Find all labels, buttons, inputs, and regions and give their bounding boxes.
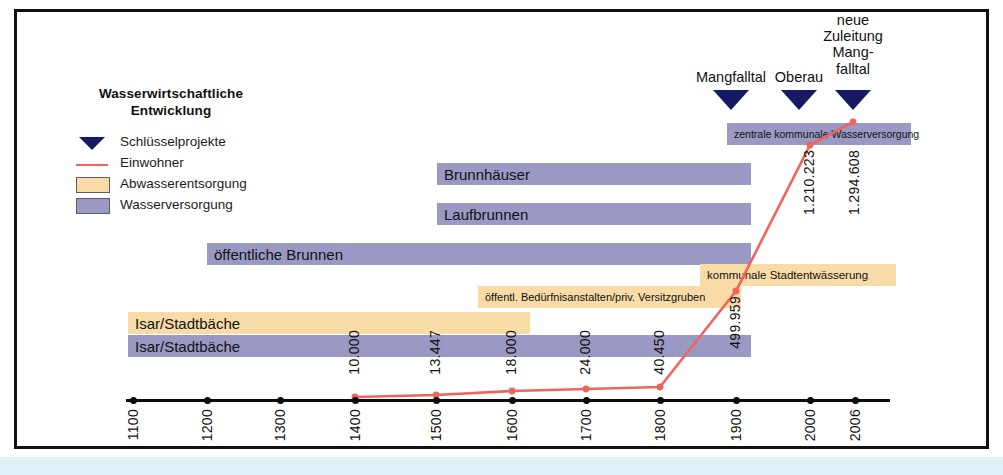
einwohner-value-label: 18.000: [503, 330, 519, 375]
key-project-label: Mangfalltal: [696, 69, 766, 85]
key-project-label: neueZuleitungMang-falltal: [823, 12, 883, 77]
timeline-bar-label: Isar/Stadtbäche: [135, 315, 240, 332]
einwohner-data-point: [583, 386, 590, 393]
axis-tick-label: 1700: [578, 409, 594, 441]
axis-tick-label: 1800: [652, 409, 668, 441]
axis-tick-label: 1600: [504, 409, 520, 441]
axis-tick-dot: [733, 397, 740, 404]
key-project-label-line: Zuleitung: [823, 28, 883, 44]
timeline-bar: öffentl. Bedürfnisanstalten/priv. Versit…: [478, 286, 741, 308]
timeline-bar: öffentliche Brunnen: [207, 243, 751, 265]
color-swatch-icon: [76, 177, 110, 193]
axis-tick-label: 2006: [847, 409, 863, 441]
legend-item-wasserversorgung: Wasserversorgung: [66, 196, 326, 217]
plot-area: Wasserwirtschaftliche Entwicklung Schlüs…: [0, 0, 1003, 457]
timeline-bar-label: zentrale kommunale Wasserversorgung: [734, 128, 919, 140]
scan-edge-strip: [0, 457, 1003, 475]
timeline-bar-label: Laufbrunnen: [444, 206, 528, 223]
axis-tick-dot: [277, 397, 284, 404]
timeline-bar: Isar/Stadtbäche: [128, 312, 530, 334]
legend-title-line1: Wasserwirtschaftliche: [66, 86, 276, 103]
axis-tick-label: 1900: [728, 409, 744, 441]
figure-root: Wasserwirtschaftliche Entwicklung Schlüs…: [0, 0, 1003, 475]
key-project-label-line: Oberau: [775, 69, 823, 85]
key-project-label: Oberau: [775, 69, 823, 85]
timeline-bar: kommunale Stadtentwässerung: [700, 264, 896, 286]
legend-item-abwasserentsorgung: Abwasserentsorgung: [66, 175, 326, 196]
timeline-bar-label: Isar/Stadtbäche: [135, 338, 240, 355]
einwohner-value-label: 499.959: [727, 296, 743, 349]
axis-baseline: [126, 399, 890, 402]
axis-tick-dot: [130, 397, 137, 404]
axis-tick-label: 1400: [347, 409, 363, 441]
key-project-label-line: neue: [823, 12, 883, 28]
axis-tick-dot: [657, 397, 664, 404]
axis-tick-label: 2000: [802, 409, 818, 441]
triangle-marker-icon: [79, 137, 105, 150]
triangle-marker-icon: [835, 90, 871, 110]
timeline-bar-label: Brunnhäuser: [444, 166, 530, 183]
timeline-bar-label: öffentl. Bedürfnisanstalten/priv. Versit…: [485, 291, 705, 303]
key-project-label-line: Mangfalltal: [696, 69, 766, 85]
timeline-bar: Laufbrunnen: [437, 203, 751, 225]
legend-item-label: Wasserversorgung: [120, 197, 233, 212]
axis-tick-label: 1200: [199, 409, 215, 441]
legend: Schlüsselprojekte Einwohner Abwasserents…: [66, 133, 326, 217]
axis-tick-dot: [509, 397, 516, 404]
legend-item-schluesselprojekte: Schlüsselprojekte: [66, 133, 326, 154]
legend-item-label: Schlüsselprojekte: [120, 134, 226, 149]
legend-title-line2: Entwicklung: [66, 103, 276, 120]
timeline-bar: Brunnhäuser: [437, 163, 751, 185]
timeline-bar: zentrale kommunale Wasserversorgung: [727, 123, 911, 145]
axis-tick-dot: [807, 397, 814, 404]
axis-tick-dot: [433, 397, 440, 404]
axis-tick-label: 1100: [125, 409, 141, 440]
einwohner-value-label: 13.447: [427, 330, 443, 375]
axis-tick-label: 1300: [272, 409, 288, 441]
einwohner-value-label: 1.210.223: [801, 150, 817, 215]
axis-tick-dot: [852, 397, 859, 404]
axis-tick-dot: [204, 397, 211, 404]
color-swatch-icon: [76, 198, 110, 214]
axis-tick-dot: [583, 397, 590, 404]
axis-tick-label: 1500: [428, 409, 444, 441]
line-swatch-icon: [76, 164, 108, 166]
legend-item-einwohner: Einwohner: [66, 154, 326, 175]
timeline-bar-label: öffentliche Brunnen: [214, 246, 343, 263]
key-project-label-line: Mang-: [823, 44, 883, 60]
einwohner-data-point: [509, 388, 516, 395]
key-project-label-line: falltal: [823, 61, 883, 77]
legend-item-label: Einwohner: [120, 155, 184, 170]
timeline-bar-label: kommunale Stadtentwässerung: [707, 269, 868, 281]
legend-item-label: Abwasserentsorgung: [120, 176, 247, 191]
legend-title: Wasserwirtschaftliche Entwicklung: [66, 86, 276, 120]
triangle-marker-icon: [781, 90, 817, 110]
einwohner-value-label: 40.450: [651, 330, 667, 375]
triangle-marker-icon: [713, 90, 749, 110]
einwohner-value-label: 10.000: [346, 330, 362, 375]
einwohner-data-point: [657, 384, 664, 391]
einwohner-value-label: 1.294.608: [846, 150, 862, 215]
einwohner-value-label: 24.000: [577, 330, 593, 375]
axis-tick-dot: [352, 397, 359, 404]
